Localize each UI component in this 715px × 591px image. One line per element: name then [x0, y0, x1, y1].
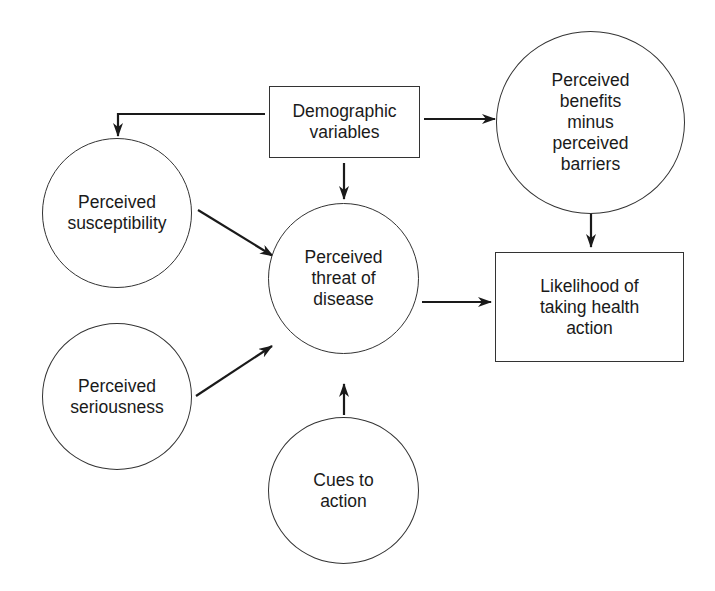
node-likelihood-of-action: Likelihood of taking health action	[495, 252, 684, 362]
node-perceived-benefits-minus-barriers: Perceived benefits minus perceived barri…	[496, 31, 685, 214]
node-label: Perceived benefits minus perceived barri…	[552, 70, 630, 175]
node-label: Perceived susceptibility	[67, 192, 166, 234]
node-label: Cues to action	[313, 470, 373, 512]
node-label: Likelihood of taking health action	[540, 276, 639, 339]
node-perceived-threat: Perceived threat of disease	[268, 203, 419, 354]
edge-seriousness-to-threat	[196, 346, 272, 396]
edge-susceptibility-to-threat	[198, 210, 273, 256]
node-perceived-susceptibility: Perceived susceptibility	[42, 138, 192, 288]
node-label: Demographic variables	[292, 101, 396, 143]
node-label: Perceived threat of disease	[305, 247, 383, 310]
node-perceived-seriousness: Perceived seriousness	[42, 323, 192, 470]
edge-demographic-to-susceptibility	[118, 114, 265, 136]
node-label: Perceived seriousness	[70, 376, 163, 418]
node-cues-to-action: Cues to action	[268, 417, 419, 564]
node-demographic-variables: Demographic variables	[269, 86, 420, 158]
